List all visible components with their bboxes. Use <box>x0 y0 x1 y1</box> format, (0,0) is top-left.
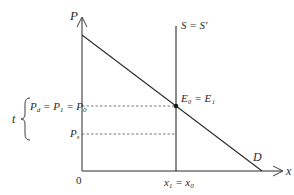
price-lower-label: Ps <box>69 127 80 141</box>
demand-curve <box>82 35 262 171</box>
tax-brace-icon <box>21 98 30 140</box>
equilibrium-point <box>174 104 179 109</box>
x-axis <box>82 166 283 176</box>
y-axis <box>77 17 87 171</box>
quantity-label: x1 = x0 <box>163 176 194 190</box>
tax-label: t <box>12 112 16 126</box>
equilibrium-label: E₀ = E₁ <box>180 92 215 104</box>
demand-label: D <box>252 150 262 164</box>
supply-label: S = S′ <box>181 19 208 31</box>
origin-label: 0 <box>76 174 82 186</box>
price-upper-label: Pd = P1 = P0 <box>29 100 87 114</box>
supply-demand-diagram: P x 0 D S = S′ E₀ = E₁ Pd = P1 = P0 Ps t… <box>0 0 294 195</box>
x-axis-label: x <box>285 164 292 178</box>
y-axis-label: P <box>69 8 78 23</box>
